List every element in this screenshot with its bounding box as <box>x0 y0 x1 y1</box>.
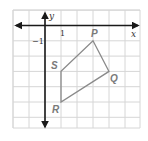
grid-lines <box>13 10 140 128</box>
coordinate-plane-svg: x y 1 −1 PQRS <box>0 0 148 141</box>
x-axis-label: x <box>131 29 136 39</box>
vertex-label-q: Q <box>110 73 118 84</box>
vertex-label-p: P <box>91 28 98 39</box>
vertex-label-r: R <box>52 104 60 115</box>
x-tick-label-1: 1 <box>60 29 65 38</box>
y-tick-label-neg-1: −1 <box>32 37 44 46</box>
vertex-label-s: S <box>51 60 58 71</box>
y-axis-label: y <box>48 11 55 21</box>
coordinate-plane-figure: x y 1 −1 PQRS <box>0 0 148 141</box>
